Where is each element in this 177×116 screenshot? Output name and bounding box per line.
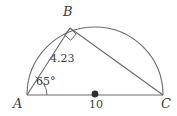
diameter-length-label-ac: 10 — [89, 99, 103, 110]
vertex-label-a: A — [13, 97, 22, 110]
vertex-label-c: C — [161, 97, 171, 110]
side-length-label-ab: 4.23 — [50, 53, 75, 64]
segment-bc — [70, 28, 163, 95]
angle-measure-label-a: 65° — [36, 76, 56, 87]
vertex-label-b: B — [63, 5, 73, 18]
center-point-dot — [92, 91, 99, 98]
geometry-figure: B A C 4.23 65° 10 — [0, 0, 177, 116]
